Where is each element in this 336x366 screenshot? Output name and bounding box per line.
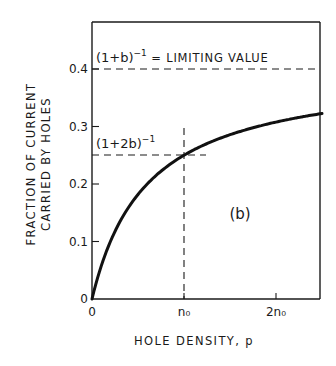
- limiting-value-label: (1+b)−1 = LIMITING VALUE: [96, 48, 269, 65]
- y-axis-title-line2: CARRIED BY HOLES: [39, 97, 53, 231]
- panel-label: (b): [229, 205, 250, 223]
- x-tick-label: n₀: [178, 305, 191, 319]
- y-tick-label: 0.2: [69, 177, 88, 191]
- x-axis-title: HOLE DENSITY, p: [134, 334, 254, 348]
- y-tick-label: 0.4: [69, 62, 88, 76]
- y-tick-label: 0.3: [69, 120, 88, 134]
- value-at-n0-label: (1+2b)−1: [96, 134, 155, 151]
- x-ticks: 0n₀2n₀: [88, 293, 286, 319]
- x-tick-label: 0: [88, 305, 96, 319]
- chart: 00.10.20.30.4 0n₀2n₀ (1+b)−1 = LIMITING …: [0, 0, 336, 366]
- x-tick-label: 2n₀: [266, 305, 286, 319]
- y-tick-label: 0.1: [69, 235, 88, 249]
- y-axis-title-line1: FRACTION OF CURRENT: [24, 83, 38, 246]
- y-ticks: 00.10.20.30.4: [69, 62, 99, 306]
- y-tick-label: 0: [80, 292, 88, 306]
